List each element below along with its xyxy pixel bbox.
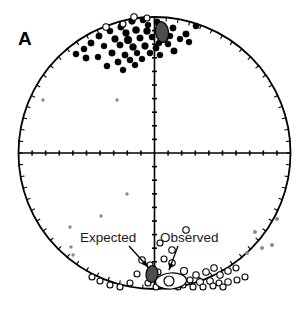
figure-container: Expected Observed A [0,0,305,324]
data-point-small-gray-dot [245,251,249,255]
data-point-open-circle [217,272,223,278]
data-point-small-gray-dot [253,230,257,234]
stereonet-plot: Expected Observed A [0,0,305,324]
data-point-filled-circle [123,30,130,37]
data-point-open-circle [211,265,217,271]
data-point-small-gray-dot [69,245,72,248]
data-point-small-gray-dot [68,225,71,228]
data-point-filled-circle [139,56,145,62]
data-point-open-circle [234,277,240,283]
data-point-open-circle [127,280,133,286]
data-point-filled-circle [144,28,151,35]
data-point-open-circle [134,271,140,277]
data-point-filled-circle [95,54,101,60]
data-point-filled-circle [157,52,163,58]
data-point-filled-circle [183,31,190,38]
data-point-open-circle [203,269,210,276]
data-point-filled-circle [132,26,139,33]
data-point-filled-circle [186,39,192,45]
data-point-filled-circle [147,50,153,56]
data-point-filled-circle [101,43,107,49]
data-point-open-circle [200,284,206,290]
data-point-filled-circle [171,48,178,55]
data-point-filled-circle [145,22,151,28]
data-point-open-circle [107,282,113,288]
data-point-open-circle [187,277,193,283]
data-point-small-gray-dot [41,98,44,101]
data-point-open-circle [210,283,216,289]
data-point-open-circle [225,268,231,274]
data-point-small-gray-dot [260,246,264,250]
data-point-filled-circle [88,40,94,46]
data-point-filled-circle [81,46,87,52]
data-point-open-circle [131,14,137,20]
data-point-open-circle [103,24,109,30]
data-point-open-circle [233,265,239,271]
data-point-filled-circle [134,50,140,56]
data-point-open-circle [161,256,167,262]
data-point-open-circle [181,268,188,275]
data-point-small-gray-dot [275,217,279,221]
data-point-filled-circle [109,50,116,57]
data-point-filled-circle [193,23,199,29]
data-point-filled-circle [112,36,119,43]
annotation-label-observed: Observed [160,230,219,245]
data-point-filled-circle [137,35,144,42]
data-point-filled-circle [117,42,123,48]
data-point-filled-circle [132,62,138,68]
data-point-open-circle [220,284,226,290]
data-point-filled-circle [96,33,102,39]
data-point-filled-circle [124,36,132,44]
data-point-small-gray-dot [99,214,102,217]
data-point-open-circle [193,272,199,278]
data-point-small-gray-dot [115,98,118,101]
data-point-open-circle [225,279,231,285]
data-point-filled-circle [127,57,133,63]
data-point-filled-circle [83,55,89,61]
mean-ellipse [164,276,174,286]
data-point-open-circle [89,274,95,280]
data-point-filled-circle [149,34,155,40]
data-point-filled-circle [170,25,176,31]
data-point-filled-circle [122,52,128,58]
panel-letter-label: A [18,28,32,49]
data-point-small-gray-dot [270,243,274,247]
data-point-filled-circle [73,51,79,57]
data-point-small-gray-dot [71,253,74,256]
data-point-open-circle [190,284,196,290]
data-point-filled-circle [142,43,149,50]
data-point-filled-circle [120,67,126,73]
data-point-open-circle [120,21,126,27]
data-point-open-circle [117,284,123,290]
annotation-label-expected: Expected [80,230,136,245]
data-point-open-circle [97,278,103,284]
data-point-open-circle [169,247,175,253]
data-point-filled-circle [130,44,137,51]
data-point-small-gray-dot [125,192,128,195]
data-point-open-circle [242,274,248,280]
data-point-filled-circle [115,59,121,65]
data-point-filled-circle [104,63,110,69]
data-point-open-circle [144,15,150,21]
data-point-filled-circle [177,36,183,42]
